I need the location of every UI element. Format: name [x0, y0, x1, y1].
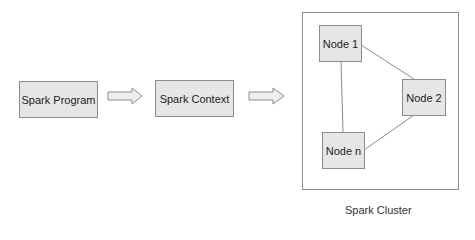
node-1-box: Node 1	[319, 25, 362, 62]
edge-node2-noden	[364, 115, 414, 150]
node-2-box: Node 2	[402, 79, 446, 116]
node-n-label: Node n	[326, 145, 361, 157]
node-n-box: Node n	[322, 132, 365, 169]
spark-cluster-label: Spark Cluster	[345, 204, 412, 216]
node-2-label: Node 2	[406, 92, 441, 104]
edge-node1-node2	[361, 45, 414, 79]
edge-node1-noden	[341, 61, 343, 132]
node-1-label: Node 1	[323, 38, 358, 50]
